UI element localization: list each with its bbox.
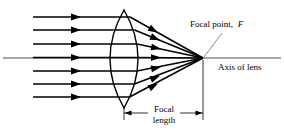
lens-outline [110, 10, 138, 108]
incoming-ray-arrowheads [71, 14, 81, 101]
axis-of-lens-label: Axis of lens [218, 62, 262, 72]
converging-lens [110, 10, 138, 108]
refracted-ray-7 [130, 58, 203, 97]
focal-point-symbol: F [237, 19, 244, 29]
dimension-arrowhead-left [125, 111, 132, 116]
incoming-ray-arrowhead-7 [71, 94, 81, 101]
incoming-ray-arrowhead-1 [71, 14, 81, 21]
dimension-arrowhead-right [196, 111, 203, 116]
focal-point-leader-line [204, 33, 222, 57]
refracted-ray-5 [137, 58, 203, 71]
focal-point-leader-group [204, 33, 222, 57]
refracted-ray-6 [134, 58, 203, 84]
focal-point-label-text: Focal point, [190, 19, 233, 29]
refracted-ray-arrowhead-2 [149, 33, 161, 43]
focal-length-label-line1: Focal [154, 104, 174, 114]
focal-point-label: Focal point, F [190, 19, 244, 29]
refracted-ray-3 [137, 44, 203, 58]
incoming-ray-arrowhead-4 [71, 54, 81, 61]
incoming-ray-arrowhead-5 [71, 68, 81, 75]
optics-diagram: Focal point, F Axis of lens Focal length [0, 0, 284, 131]
refracted-ray-2 [135, 30, 203, 58]
incoming-ray-arrowhead-6 [71, 81, 81, 88]
refracted-ray-4 [138, 58, 203, 59]
refracted-rays-group [130, 17, 203, 97]
refracted-ray-arrowhead-1 [148, 25, 160, 36]
refracted-ray-arrowhead-5 [151, 64, 162, 73]
focal-length-label-line2: length [153, 115, 176, 125]
lens-ray-diagram-svg: Focal point, F Axis of lens Focal length [0, 0, 284, 131]
incoming-ray-arrowhead-3 [71, 41, 81, 48]
refracted-ray-arrowhead-4 [151, 54, 161, 61]
refracted-ray-arrowhead-3 [151, 44, 162, 53]
incoming-ray-arrowhead-2 [71, 27, 81, 34]
